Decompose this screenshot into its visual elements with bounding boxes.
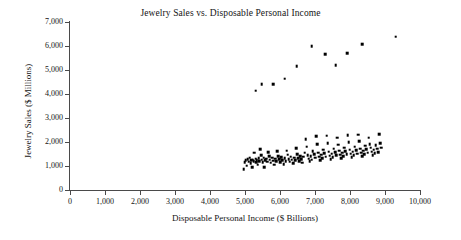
data-point xyxy=(310,45,313,48)
data-point xyxy=(356,152,359,155)
data-point xyxy=(263,166,266,169)
y-tick-label: 1,000 xyxy=(45,161,63,170)
data-point xyxy=(272,83,275,86)
x-tick-label: 5,000 xyxy=(236,197,254,206)
x-tick-mark xyxy=(385,190,386,195)
y-tick-label: 4,000 xyxy=(45,89,63,98)
data-point xyxy=(315,135,318,138)
data-point xyxy=(324,155,327,158)
x-tick-label: 3,000 xyxy=(166,197,184,206)
data-point xyxy=(316,143,319,146)
data-point xyxy=(256,164,259,167)
data-point xyxy=(380,146,383,149)
data-point xyxy=(357,133,360,136)
data-point xyxy=(336,136,339,139)
x-tick-mark xyxy=(315,190,316,195)
x-axis-title: Disposable Personal Income ($ Billions) xyxy=(70,213,420,223)
x-tick-mark xyxy=(245,190,246,195)
data-point xyxy=(296,65,299,68)
chart-title: Jewelry Sales vs. Disposable Personal In… xyxy=(0,8,461,18)
x-tick-mark xyxy=(210,190,211,195)
x-tick-label: 2,000 xyxy=(131,197,149,206)
data-point xyxy=(368,143,371,146)
x-tick-mark xyxy=(420,190,421,195)
data-point xyxy=(313,153,316,156)
x-tick-mark xyxy=(105,190,106,195)
y-tick-label: 2,000 xyxy=(45,137,63,146)
data-point xyxy=(325,134,328,137)
data-point xyxy=(300,158,303,161)
data-point xyxy=(367,136,370,139)
y-axis-title: Jewelry Sales ($ Millions) xyxy=(23,31,33,191)
x-tick-label: 10,000 xyxy=(409,197,431,206)
data-point xyxy=(335,154,338,157)
data-point xyxy=(302,156,305,159)
data-point xyxy=(242,168,245,171)
data-point xyxy=(261,83,264,86)
x-tick-label: 6,000 xyxy=(271,197,289,206)
data-point xyxy=(346,52,349,55)
data-point xyxy=(253,151,256,154)
data-point xyxy=(358,140,361,143)
data-point xyxy=(344,150,347,153)
data-point xyxy=(345,153,348,156)
data-point xyxy=(324,53,327,56)
data-point xyxy=(312,150,315,153)
data-point xyxy=(343,146,346,149)
data-point xyxy=(366,151,369,154)
data-point xyxy=(276,150,279,153)
data-point xyxy=(334,64,337,67)
data-point xyxy=(379,142,382,145)
y-tick-label: 3,000 xyxy=(45,113,63,122)
y-tick-label: 7,000 xyxy=(45,17,63,26)
data-point xyxy=(378,133,381,136)
data-point xyxy=(259,148,262,151)
data-point xyxy=(305,146,308,149)
plot-area xyxy=(70,22,420,190)
chart-figure: Jewelry Sales vs. Disposable Personal In… xyxy=(0,0,461,240)
data-point xyxy=(376,147,379,150)
data-point xyxy=(283,78,286,81)
data-point xyxy=(273,164,276,167)
data-point xyxy=(375,144,378,147)
x-tick-mark xyxy=(280,190,281,195)
data-point xyxy=(267,151,270,154)
data-point xyxy=(333,147,336,150)
data-point xyxy=(314,157,317,160)
data-point xyxy=(394,36,397,39)
data-point xyxy=(304,138,307,141)
data-point xyxy=(282,163,285,166)
x-tick-mark xyxy=(175,190,176,195)
x-tick-mark xyxy=(350,190,351,195)
x-tick-label: 0 xyxy=(68,197,72,206)
y-tick-label: 0 xyxy=(59,185,63,194)
x-tick-label: 1,000 xyxy=(96,197,114,206)
data-point xyxy=(245,164,248,167)
y-tick-label: 6,000 xyxy=(45,41,63,50)
data-point xyxy=(285,149,288,152)
data-point xyxy=(255,89,258,92)
data-point xyxy=(326,142,329,145)
x-tick-label: 7,000 xyxy=(306,197,324,206)
data-point xyxy=(292,162,295,165)
x-tick-label: 8,000 xyxy=(341,197,359,206)
data-point xyxy=(251,166,254,169)
x-tick-label: 9,000 xyxy=(376,197,394,206)
data-point xyxy=(364,145,367,148)
y-tick-label: 5,000 xyxy=(45,65,63,74)
x-tick-label: 4,000 xyxy=(201,197,219,206)
x-tick-mark xyxy=(140,190,141,195)
data-point xyxy=(355,149,358,152)
data-point xyxy=(295,147,298,150)
data-point xyxy=(322,148,325,151)
x-tick-mark xyxy=(70,190,71,195)
data-point xyxy=(337,144,340,147)
data-point xyxy=(334,151,337,154)
data-point xyxy=(361,43,364,46)
data-point xyxy=(377,151,380,154)
data-point xyxy=(323,152,326,155)
data-point xyxy=(346,134,349,137)
data-point xyxy=(354,146,357,149)
data-point xyxy=(365,148,368,151)
data-point xyxy=(347,141,350,144)
